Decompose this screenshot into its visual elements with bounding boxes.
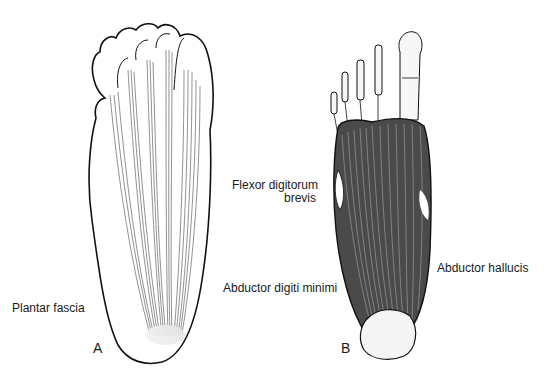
panel-letter-b: B <box>341 340 350 356</box>
label-abductor-hallucis: Abductor hallucis <box>437 262 528 275</box>
label-plantar-fascia: Plantar fascia <box>12 302 85 315</box>
anatomy-figure: Plantar fascia A Flexor digitorum brevis… <box>0 0 548 378</box>
panel-letter-a: A <box>93 340 102 356</box>
label-abductor-digiti-minimi: Abductor digiti minimi <box>223 282 337 295</box>
label-flexor-digitorum-line2: brevis <box>284 192 316 205</box>
